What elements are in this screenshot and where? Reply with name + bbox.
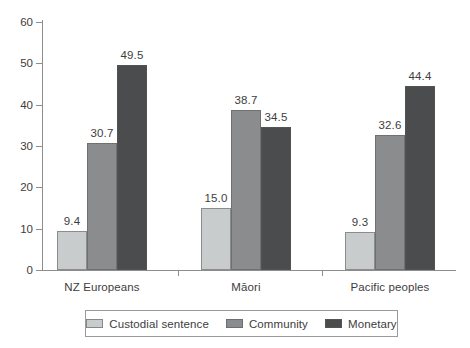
bar-value-label: 9.3 [352,216,368,228]
y-axis-tick-label: 40 [0,99,33,111]
bar-value-label: 49.5 [121,49,144,61]
x-axis-category-label: Māori [231,281,260,293]
legend-swatch [86,319,103,328]
x-axis-tick [322,271,323,276]
bar [231,110,261,270]
bar [345,232,375,270]
bar [117,65,147,270]
bar-value-label: 30.7 [91,127,114,139]
legend-label: Monetary [348,318,397,330]
legend-label: Community [249,318,308,330]
chart-legend: Custodial sentenceCommunityMonetary [85,310,398,337]
x-axis-category-label: NZ Europeans [64,281,139,293]
legend-label: Custodial sentence [109,318,209,330]
bar [57,231,87,270]
bar-chart: 0102030405060 9.430.749.515.038.734.59.3… [0,0,470,348]
bar [261,127,291,270]
bar-value-label: 34.5 [265,111,288,123]
y-axis-tick-label: 60 [0,16,33,28]
x-axis-line [42,270,456,271]
bar [201,208,231,270]
x-axis-tick [178,271,179,276]
bar [405,86,435,270]
y-axis-tick-label: 10 [0,223,33,235]
y-axis-tick-label: 50 [0,57,33,69]
bar [375,135,405,270]
x-axis-category-label: Pacific peoples [351,281,430,293]
legend-swatch [325,319,342,328]
bar-value-label: 38.7 [235,94,258,106]
bar [87,143,117,270]
y-axis-tick-label: 20 [0,181,33,193]
plot-area [43,22,456,270]
y-axis-tick-label: 0 [0,264,33,276]
bar-value-label: 44.4 [409,70,432,82]
legend-item: Custodial sentence [86,318,209,330]
y-axis-tick-label: 30 [0,140,33,152]
bar-value-label: 9.4 [64,215,80,227]
legend-item: Community [226,318,308,330]
legend-swatch [226,319,243,328]
bar-value-label: 32.6 [379,119,402,131]
bar-value-label: 15.0 [205,192,228,204]
legend-item: Monetary [325,318,397,330]
